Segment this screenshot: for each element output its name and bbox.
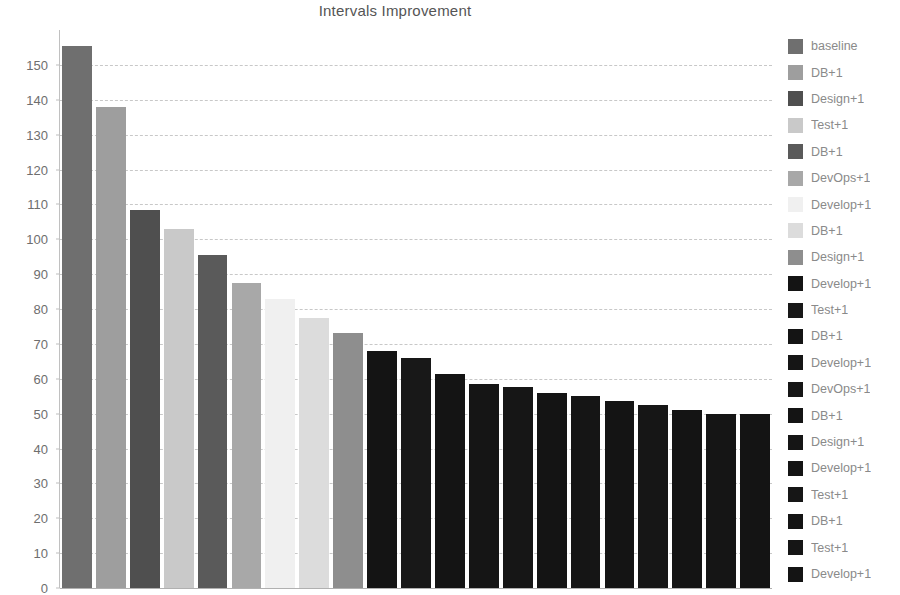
y-axis-tick-label: 90 bbox=[34, 267, 48, 282]
legend-item-label: Design+1 bbox=[811, 92, 864, 106]
legend-item-label: DB+1 bbox=[811, 224, 843, 238]
bar[interactable] bbox=[503, 387, 533, 588]
legend-swatch-icon bbox=[788, 39, 803, 54]
legend-swatch-icon bbox=[788, 223, 803, 238]
legend-item[interactable]: Design+1 bbox=[788, 244, 900, 270]
bar[interactable] bbox=[740, 414, 770, 588]
legend-item-label: Develop+1 bbox=[811, 277, 871, 291]
legend-item[interactable]: DevOps+1 bbox=[788, 165, 900, 191]
legend-swatch-icon bbox=[788, 144, 803, 159]
legend-item[interactable]: DB+1 bbox=[788, 508, 900, 534]
gridline bbox=[60, 588, 772, 589]
legend-item[interactable]: DB+1 bbox=[788, 402, 900, 428]
plot-area bbox=[60, 30, 772, 588]
y-axis-tick-label: 120 bbox=[26, 162, 48, 177]
legend-swatch-icon bbox=[788, 197, 803, 212]
legend-swatch-icon bbox=[788, 250, 803, 265]
bar[interactable] bbox=[367, 351, 397, 588]
legend-item-label: Test+1 bbox=[811, 303, 848, 317]
legend-item-label: Develop+1 bbox=[811, 461, 871, 475]
y-axis-tick-label: 0 bbox=[41, 581, 48, 595]
legend-item[interactable]: Test+1 bbox=[788, 534, 900, 560]
y-axis-tick-label: 20 bbox=[34, 511, 48, 526]
y-axis-tick-label: 140 bbox=[26, 92, 48, 107]
legend-item[interactable]: Develop+1 bbox=[788, 271, 900, 297]
legend-swatch-icon bbox=[788, 514, 803, 529]
legend-swatch-icon bbox=[788, 461, 803, 476]
y-axis-tick-labels: 0102030405060708090100110120130140150 bbox=[0, 30, 56, 588]
bar[interactable] bbox=[537, 393, 567, 588]
y-axis-tick-label: 10 bbox=[34, 546, 48, 561]
y-axis-tick-label: 110 bbox=[27, 197, 48, 212]
legend-item[interactable]: Test+1 bbox=[788, 482, 900, 508]
legend-item[interactable]: Design+1 bbox=[788, 86, 900, 112]
y-axis-tick-label: 30 bbox=[34, 476, 48, 491]
legend-item-label: DB+1 bbox=[811, 145, 843, 159]
y-axis-tick-label: 50 bbox=[34, 406, 48, 421]
y-axis-tick-label: 70 bbox=[34, 336, 48, 351]
y-axis-tick-label: 60 bbox=[34, 371, 48, 386]
y-axis-tick-label: 130 bbox=[26, 127, 48, 142]
bar[interactable] bbox=[96, 107, 126, 588]
legend-item-label: Develop+1 bbox=[811, 356, 871, 370]
bar[interactable] bbox=[706, 414, 736, 588]
legend-item-label: DB+1 bbox=[811, 329, 843, 343]
legend-item[interactable]: DevOps+1 bbox=[788, 376, 900, 402]
bar[interactable] bbox=[605, 401, 635, 588]
legend-item-label: DB+1 bbox=[811, 514, 843, 528]
legend-item-label: Design+1 bbox=[811, 435, 864, 449]
legend-item-label: Develop+1 bbox=[811, 567, 871, 581]
legend-item[interactable]: Develop+1 bbox=[788, 561, 900, 587]
bar[interactable] bbox=[435, 374, 465, 588]
legend-item[interactable]: Develop+1 bbox=[788, 350, 900, 376]
y-axis-tick-label: 100 bbox=[26, 232, 48, 247]
bar[interactable] bbox=[672, 410, 702, 588]
legend-swatch-icon bbox=[788, 540, 803, 555]
legend-swatch-icon bbox=[788, 355, 803, 370]
bar[interactable] bbox=[265, 299, 295, 588]
bar[interactable] bbox=[130, 210, 160, 588]
legend-item[interactable]: DB+1 bbox=[788, 218, 900, 244]
legend-swatch-icon bbox=[788, 118, 803, 133]
legend-item-label: DB+1 bbox=[811, 66, 843, 80]
legend-swatch-icon bbox=[788, 171, 803, 186]
legend-item[interactable]: DB+1 bbox=[788, 139, 900, 165]
legend-item-label: Test+1 bbox=[811, 118, 848, 132]
bar[interactable] bbox=[469, 384, 499, 588]
legend-item[interactable]: baseline bbox=[788, 33, 900, 59]
legend-item[interactable]: Test+1 bbox=[788, 112, 900, 138]
legend-item[interactable]: Test+1 bbox=[788, 297, 900, 323]
legend-swatch-icon bbox=[788, 65, 803, 80]
legend-item[interactable]: Develop+1 bbox=[788, 191, 900, 217]
bar[interactable] bbox=[198, 255, 228, 588]
bar[interactable] bbox=[62, 46, 92, 588]
legend-swatch-icon bbox=[788, 382, 803, 397]
legend-swatch-icon bbox=[788, 487, 803, 502]
legend-item-label: baseline bbox=[811, 39, 858, 53]
legend-item[interactable]: DB+1 bbox=[788, 59, 900, 85]
chart-title: Intervals Improvement bbox=[0, 2, 790, 19]
legend-item-label: Design+1 bbox=[811, 250, 864, 264]
y-axis-tick-label: 80 bbox=[34, 302, 48, 317]
legend-item[interactable]: DB+1 bbox=[788, 323, 900, 349]
legend-item-label: Test+1 bbox=[811, 541, 848, 555]
legend-swatch-icon bbox=[788, 567, 803, 582]
legend-item[interactable]: Develop+1 bbox=[788, 455, 900, 481]
legend-item-label: DevOps+1 bbox=[811, 382, 870, 396]
bar[interactable] bbox=[299, 318, 329, 588]
legend-item[interactable]: Design+1 bbox=[788, 429, 900, 455]
y-axis-tick-label: 40 bbox=[34, 441, 48, 456]
bar[interactable] bbox=[333, 333, 363, 588]
legend-swatch-icon bbox=[788, 303, 803, 318]
legend-swatch-icon bbox=[788, 408, 803, 423]
bar[interactable] bbox=[571, 396, 601, 588]
bar[interactable] bbox=[164, 229, 194, 588]
bar[interactable] bbox=[401, 358, 431, 588]
bar[interactable] bbox=[232, 283, 262, 588]
chart-legend: baselineDB+1Design+1Test+1DB+1DevOps+1De… bbox=[788, 33, 900, 587]
legend-swatch-icon bbox=[788, 91, 803, 106]
bar[interactable] bbox=[638, 405, 668, 588]
legend-swatch-icon bbox=[788, 435, 803, 450]
legend-item-label: Test+1 bbox=[811, 488, 848, 502]
legend-item-label: DevOps+1 bbox=[811, 171, 870, 185]
